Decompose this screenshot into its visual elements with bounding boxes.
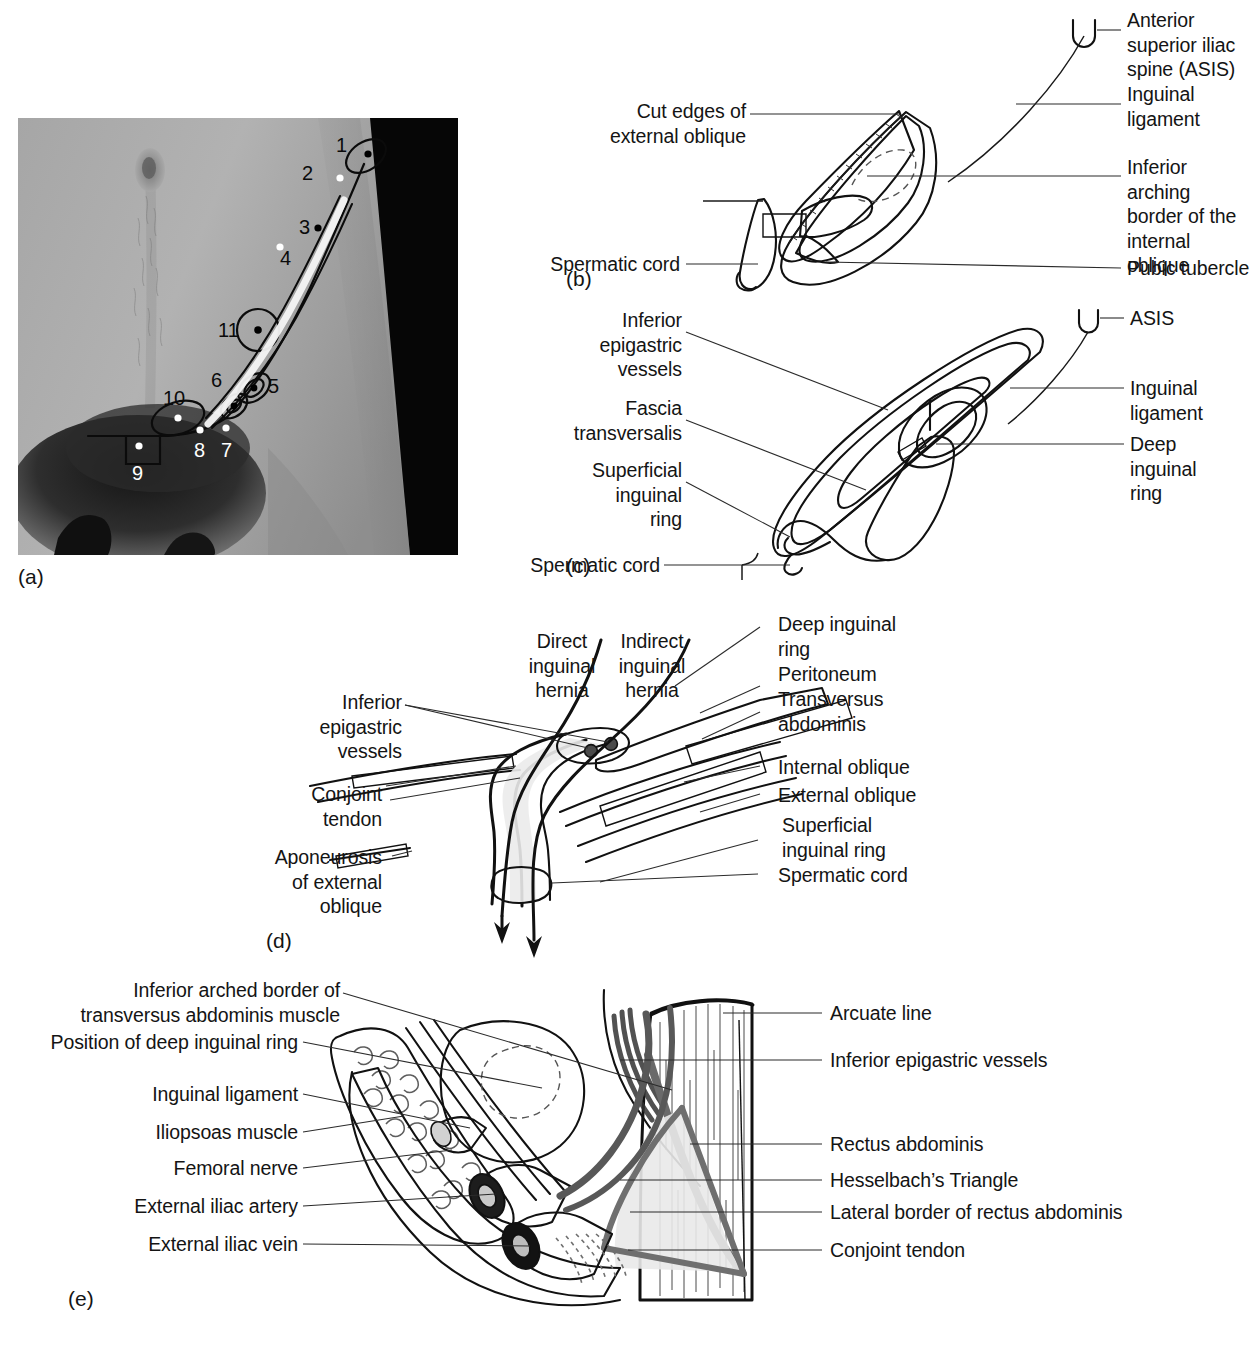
label-inferior-epigastric-vessels-d: Inferior epigastric vessels — [230, 690, 402, 764]
label-position-of-deep-inguinal-ring: Position of deep inguinal ring — [20, 1030, 298, 1055]
panel-e-artwork — [303, 990, 822, 1305]
label-asis-c: ASIS — [1130, 306, 1240, 331]
label-internal-oblique-d: Internal oblique — [778, 755, 978, 780]
label-inferior-arched-border-transversus: Inferior arched border of transversus ab… — [20, 978, 340, 1027]
label-peritoneum: Peritoneum — [778, 662, 958, 687]
photo-marker-6: 6 — [211, 370, 222, 390]
label-inferior-epigastric-vessels-c: Inferior epigastric vessels — [530, 308, 682, 382]
photo-marker-8: 8 — [194, 440, 205, 460]
photo-marker-4: 4 — [280, 248, 291, 268]
label-hesselbachs-triangle: Hesselbach’s Triangle — [830, 1168, 1230, 1193]
label-indirect-inguinal-hernia: Indirect inguinal hernia — [604, 629, 700, 703]
panel-d-id: (d) — [266, 930, 292, 952]
photo-marker-7: 7 — [221, 440, 232, 460]
label-rectus-abdominis: Rectus abdominis — [830, 1132, 1230, 1157]
panel-e-id: (e) — [68, 1288, 94, 1310]
label-fascia-transversalis: Fascia transversalis — [530, 396, 682, 445]
photo-marker-2: 2 — [302, 163, 313, 183]
label-inguinal-ligament-b: Inguinal ligament — [1127, 82, 1247, 131]
panel-a-photograph: 1 2 3 4 5 6 7 8 9 10 11 — [18, 118, 458, 555]
label-external-iliac-vein: External iliac vein — [20, 1232, 298, 1257]
label-conjoint-tendon-d: Conjoint tendon — [230, 782, 382, 831]
label-conjoint-tendon-e: Conjoint tendon — [830, 1238, 1230, 1263]
figure-root: 1 2 3 4 5 6 7 8 9 10 11 (a) (b) Cut edge… — [0, 0, 1253, 1348]
label-asis-b: Anterior superior iliac spine (ASIS) — [1127, 8, 1253, 82]
label-cut-edges-external-oblique: Cut edges of external oblique — [530, 99, 746, 148]
photo-marker-5: 5 — [268, 376, 279, 396]
label-arcuate-line: Arcuate line — [830, 1001, 1230, 1026]
label-external-oblique-d: External oblique — [778, 783, 978, 808]
label-inguinal-ligament-e: Inguinal ligament — [20, 1082, 298, 1107]
panel-a-id: (a) — [18, 566, 44, 588]
label-iliopsoas-muscle: Iliopsoas muscle — [20, 1120, 298, 1145]
label-external-iliac-artery: External iliac artery — [20, 1194, 298, 1219]
photo-marker-11: 11 — [218, 320, 239, 340]
label-spermatic-cord-d: Spermatic cord — [778, 863, 978, 888]
photo-marker-1: 1 — [336, 135, 347, 155]
label-lateral-border-of-rectus-abdominis: Lateral border of rectus abdominis — [830, 1200, 1250, 1225]
label-inguinal-ligament-c: Inguinal ligament — [1130, 376, 1250, 425]
label-superficial-inguinal-ring-c: Superficial inguinal ring — [530, 458, 682, 532]
label-superficial-inguinal-ring-d: Superficial inguinal ring — [782, 813, 982, 862]
panel-c-artwork — [664, 310, 1124, 580]
label-deep-inguinal-ring-c: Deep inguinal ring — [1130, 432, 1240, 506]
photo-marker-3: 3 — [299, 217, 310, 237]
label-aponeurosis-external-oblique: Aponeurosis of external oblique — [210, 845, 382, 919]
label-deep-inguinal-ring-d: Deep inguinal ring — [778, 612, 958, 661]
photo-marker-9: 9 — [132, 463, 143, 483]
label-spermatic-cord-c: Spermatic cord — [500, 553, 660, 578]
panel-b-artwork — [686, 20, 1121, 291]
label-transversus-abdominis-d: Transversus abdominis — [778, 687, 958, 736]
label-femoral-nerve: Femoral nerve — [20, 1156, 298, 1181]
label-inferior-epigastric-vessels-e: Inferior epigastric vessels — [830, 1048, 1230, 1073]
label-pubic-tubercle: Pubic tubercle — [1127, 256, 1253, 281]
photo-marker-10: 10 — [163, 388, 185, 408]
label-spermatic-cord-b: Spermatic cord — [530, 252, 680, 277]
label-direct-inguinal-hernia: Direct inguinal hernia — [514, 629, 610, 703]
